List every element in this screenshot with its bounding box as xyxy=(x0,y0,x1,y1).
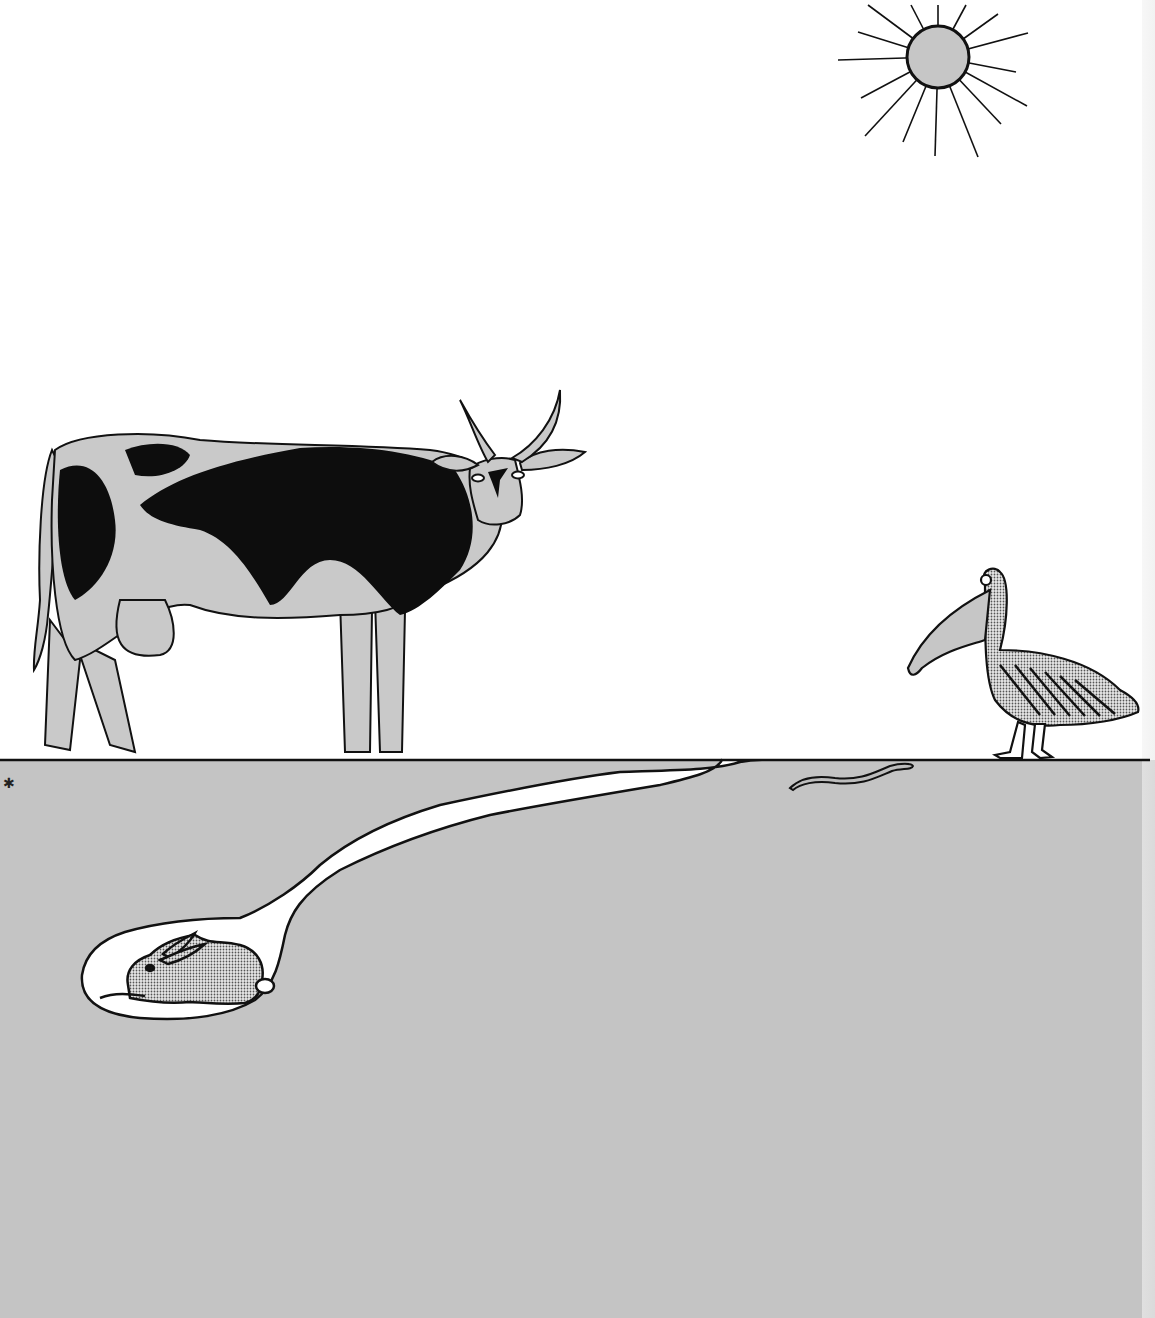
illustration: ✱ xyxy=(0,0,1155,1318)
earthworm-icon xyxy=(790,764,913,790)
ink-mark: ✱ xyxy=(3,775,15,791)
pelican-icon xyxy=(908,569,1138,758)
sun-icon xyxy=(838,5,1028,157)
cow-icon xyxy=(34,390,585,752)
